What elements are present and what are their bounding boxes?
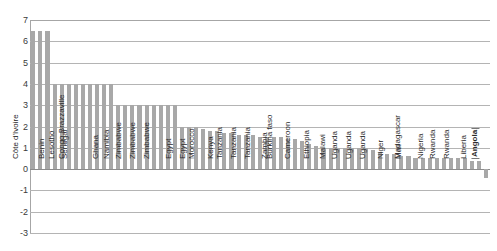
bar	[31, 31, 35, 169]
x-label-slot: Uganda	[341, 157, 348, 251]
x-label-slot: Senegal	[72, 157, 79, 251]
x-axis-tick-label: Kenya	[206, 136, 214, 159]
x-axis-tick-label: Tanzania	[216, 127, 224, 159]
x-label-slot: Benin	[44, 157, 51, 251]
x-label-slot	[278, 157, 285, 251]
x-label-slot	[419, 157, 426, 251]
x-axis-tick-label: Nigeria	[417, 134, 425, 159]
x-label-slot	[179, 157, 186, 251]
x-axis-tick-label: Niger	[378, 140, 386, 159]
x-label-slot	[207, 157, 214, 251]
x-axis-tick-label: Namibia	[104, 130, 112, 159]
y-axis-tick-label: 6	[2, 37, 28, 46]
x-label-slot	[462, 157, 469, 251]
x-label-slot	[476, 157, 483, 251]
x-label-slot	[80, 157, 87, 251]
y-axis-tick-label: 0	[2, 165, 28, 174]
x-label-slot	[94, 157, 101, 251]
x-label-slot	[37, 157, 44, 251]
x-label-slot	[264, 157, 271, 251]
x-label-slot: Angola	[483, 157, 490, 251]
x-axis-tick-label: Cameroon	[284, 122, 292, 159]
x-label-slot	[235, 157, 242, 251]
x-label-slot: Lesotho	[58, 157, 65, 251]
x-label-slot	[433, 157, 440, 251]
x-label-slot: Namibia	[115, 157, 122, 251]
x-axis-tick-label: Côte d'Ivoire	[11, 114, 19, 159]
x-axis-tick-label: Liberia	[460, 135, 468, 159]
x-label-slot	[320, 157, 327, 251]
x-label-slot: Zimbabwe	[129, 157, 136, 251]
x-label-slot: Ghana	[101, 157, 108, 251]
x-label-slot: Morocco	[200, 157, 207, 251]
x-label-slot	[221, 157, 228, 251]
x-axis-tick-label: Tanzania	[230, 127, 238, 159]
x-label-slot	[249, 157, 256, 251]
x-label-slot: Zimbabwe	[157, 157, 164, 251]
x-axis-tick-label: Ethiopia	[302, 130, 310, 159]
x-label-slot: Rwanda	[441, 157, 448, 251]
x-label-slot	[448, 157, 455, 251]
x-label-slot	[349, 157, 356, 251]
x-label-slot	[136, 157, 143, 251]
x-label-slot: Egypt	[186, 157, 193, 251]
x-axis-tick-label: Malawi	[318, 134, 326, 159]
x-axis-tick-label: Lesotho	[48, 131, 56, 159]
x-label-slot: Mali	[398, 157, 405, 251]
x-label-slot: Nigeria	[426, 157, 433, 251]
x-label-slot: Tanzania	[257, 157, 264, 251]
x-label-slot	[108, 157, 115, 251]
x-axis-tick-label: Uganda	[331, 131, 339, 159]
x-label-slot: Tanzania	[242, 157, 249, 251]
x-axis-tick-label: Uganda	[345, 131, 353, 159]
x-label-slot: Congo Brazzaville	[87, 157, 94, 251]
x-label-slot: Zambia	[271, 157, 278, 251]
x-label-slot	[51, 157, 58, 251]
x-label-slot: Uganda	[370, 157, 377, 251]
x-axis-tick-label: Burkina faso	[266, 115, 274, 159]
bar-chart: 76543210-1-2-3 Côte d'IvoireBeninLesotho…	[0, 0, 497, 251]
x-label-slot: Cameroon	[299, 157, 306, 251]
x-axis-tick-label: Tanzania	[244, 127, 252, 159]
x-label-slot	[150, 157, 157, 251]
y-axis-tick-label: -3	[2, 229, 28, 238]
x-label-slot	[122, 157, 129, 251]
y-axis-tick-label: 5	[2, 59, 28, 68]
y-axis-tick-label: 7	[2, 16, 28, 25]
x-axis-tick-label: Rwanda	[444, 130, 452, 159]
x-label-slot	[363, 157, 370, 251]
y-axis-tick-label: 3	[2, 101, 28, 110]
x-label-slot: Madagascar	[412, 157, 419, 251]
x-label-slot: Côte d'Ivoire	[30, 157, 37, 251]
x-axis-tick-label: Madagascar	[394, 115, 402, 159]
x-label-slot	[292, 157, 299, 251]
x-label-slot	[193, 157, 200, 251]
y-axis-tick-label: -2	[2, 208, 28, 217]
x-label-slot: Uganda	[356, 157, 363, 251]
x-label-slot: Rwanda	[455, 157, 462, 251]
x-axis-tick-label: Morocco	[188, 128, 196, 159]
x-axis-tick-label: Congo Brazzaville	[58, 95, 66, 159]
x-label-slot	[405, 157, 412, 251]
x-axis-tick-label: Zimbabwe	[114, 122, 122, 159]
x-axis-tick-label: Benin	[37, 139, 45, 159]
x-label-slot	[391, 157, 398, 251]
x-label-slot: Kenya	[214, 157, 221, 251]
x-axis-labels: Côte d'IvoireBeninLesothoSenegalCongo Br…	[30, 157, 490, 251]
x-label-slot	[164, 157, 171, 251]
x-label-slot: Ethiopia	[313, 157, 320, 251]
x-label-slot: Zimbabwe	[143, 157, 150, 251]
x-axis-tick-label: Zimbabwe	[142, 122, 150, 159]
y-axis-tick-label: 4	[2, 80, 28, 89]
y-axis-tick-label: -1	[2, 186, 28, 195]
x-axis-tick-label: Rwanda	[429, 130, 437, 159]
x-axis-tick-label: Egypt	[165, 139, 173, 159]
x-label-slot	[377, 157, 384, 251]
x-label-slot	[334, 157, 341, 251]
x-label-slot: Burkina faso	[285, 157, 292, 251]
x-label-slot: Niger	[384, 157, 391, 251]
x-label-slot: Tanzania	[228, 157, 235, 251]
x-label-slot: Egypt	[172, 157, 179, 251]
x-axis-tick-label: Ghana	[92, 135, 100, 159]
x-axis-tick-label: Zimbabwe	[128, 122, 136, 159]
